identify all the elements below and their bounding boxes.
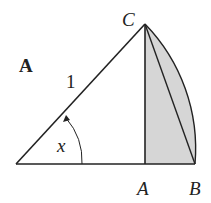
angle-arc <box>66 118 82 164</box>
vertex-label-b: B <box>189 178 201 199</box>
unit-circle-sector-diagram: A 1 x C A B <box>0 0 211 203</box>
panel-label: A <box>19 55 33 76</box>
vertex-label-c: C <box>122 9 135 30</box>
vertex-label-a: A <box>135 178 149 199</box>
radius-line-oc <box>16 24 145 164</box>
angle-label: x <box>56 135 66 156</box>
hypotenuse-label: 1 <box>66 71 76 92</box>
